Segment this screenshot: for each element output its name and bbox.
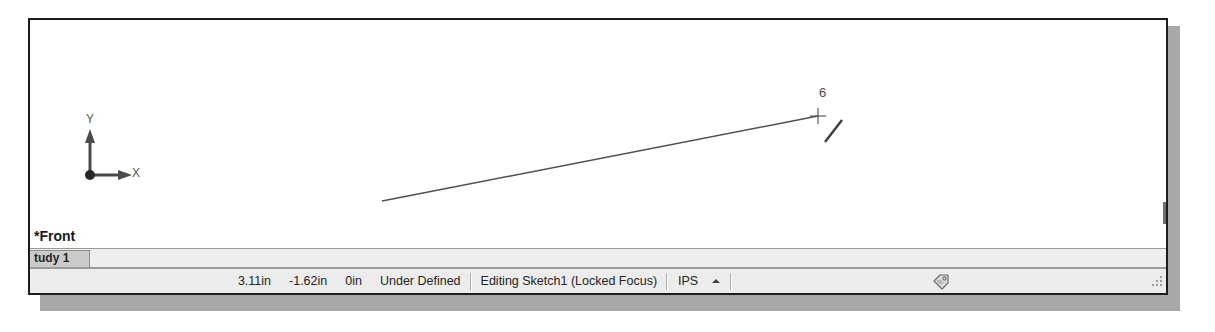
sketch-geometry[interactable] <box>30 20 1166 248</box>
sketch-line[interactable] <box>382 116 818 201</box>
sketch-dimension-value: 6 <box>819 85 826 100</box>
line-tool-cursor-icon <box>825 120 842 142</box>
units-system-label: IPS <box>678 274 698 288</box>
screenshot-root: Y X 6 *Front tudy 1 <box>0 0 1215 332</box>
units-system-selector[interactable]: IPS <box>668 274 730 288</box>
sketch-point-marker[interactable] <box>810 108 826 124</box>
status-coordinate-z: 0in <box>336 270 371 293</box>
status-separator-3 <box>730 273 732 290</box>
tag-icon[interactable] <box>931 272 951 290</box>
tab-study-1[interactable]: tudy 1 <box>28 250 90 267</box>
caret-up-icon[interactable] <box>712 279 720 283</box>
cad-application-window: Y X 6 *Front tudy 1 <box>28 18 1168 295</box>
resize-grip-icon[interactable] <box>1150 274 1164 288</box>
graphics-area[interactable]: Y X 6 *Front <box>30 20 1166 248</box>
frame-edge-nub <box>1163 202 1166 224</box>
view-orientation-label: *Front <box>34 228 75 244</box>
status-coordinate-x: 3.11in <box>229 270 280 293</box>
status-editing-state: Editing Sketch1 (Locked Focus) <box>472 270 666 293</box>
status-bar: 3.11in -1.62in 0in Under Defined Editing… <box>30 268 1166 293</box>
status-coordinate-y: -1.62in <box>280 270 336 293</box>
status-sketch-state: Under Defined <box>371 270 470 293</box>
document-tab-strip[interactable]: tudy 1 <box>30 248 1166 268</box>
